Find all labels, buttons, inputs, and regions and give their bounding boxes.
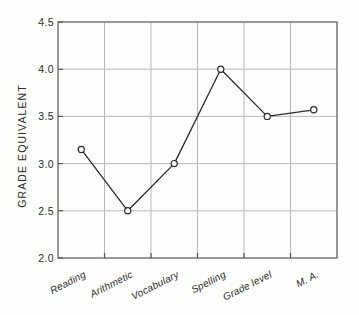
- data-point-marker[interactable]: [171, 161, 177, 167]
- plot-area: [0, 0, 359, 315]
- data-point-marker[interactable]: [78, 146, 84, 152]
- data-point-marker[interactable]: [218, 66, 224, 72]
- data-point-marker[interactable]: [264, 113, 270, 119]
- data-point-marker[interactable]: [311, 107, 317, 113]
- data-point-marker[interactable]: [125, 208, 131, 214]
- chart-figure: GRADE EQUIVALENT 2.02.53.03.54.04.5 Read…: [0, 0, 359, 315]
